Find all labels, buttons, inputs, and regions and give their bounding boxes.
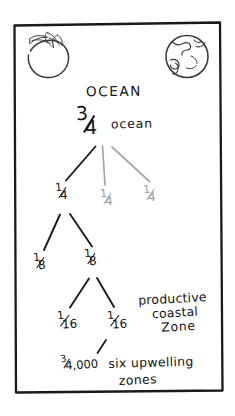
- fraction-denominator: 4: [85, 118, 98, 137]
- fraction-denominator: 8: [89, 255, 97, 268]
- edge-root-q3: [112, 147, 150, 182]
- bottom-text-line-2: zones: [118, 371, 157, 388]
- tomato-icon: [28, 33, 68, 78]
- fraction-denominator: 4,000: [65, 359, 99, 372]
- fraction-denominator: 8: [38, 259, 46, 272]
- globe-earth-icon: [166, 36, 208, 78]
- sketch-strokes: [0, 0, 235, 416]
- edge-q1-e1: [44, 215, 60, 251]
- edge-s2-final: [98, 340, 107, 353]
- edge-e2-s1: [70, 279, 89, 308]
- fraction-denominator: 4: [105, 195, 113, 207]
- edge-root-q1: [66, 147, 96, 181]
- edge-root-q2: [103, 146, 106, 185]
- bottom-text-line-1: six upwelling: [108, 354, 194, 371]
- fraction-denominator: 16: [62, 318, 78, 331]
- edge-e2-s2: [97, 278, 114, 307]
- root-node-label: ocean: [111, 116, 153, 132]
- fraction-denominator: 16: [112, 318, 128, 331]
- page-title: OCEAN: [86, 83, 142, 100]
- annotation-productive-coastal-zone: productive coastal Zone: [126, 290, 219, 335]
- fraction-denominator: 4: [60, 189, 68, 201]
- edge-q1-e2: [70, 214, 92, 247]
- fraction-denominator: 4: [148, 191, 156, 203]
- sketch-diagram-canvas: OCEAN 3 4 ocean 1 4 1 4 1 4 1 8 1 8 1 16…: [0, 0, 235, 416]
